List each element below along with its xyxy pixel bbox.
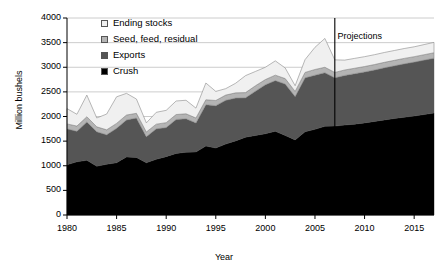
x-tick-label-2000: 2000 xyxy=(245,224,285,233)
legend-label-0: Ending stocks xyxy=(113,18,172,28)
legend-item-2[interactable]: Exports xyxy=(101,47,198,63)
legend-swatch-icon-1 xyxy=(101,36,108,43)
y-tick-label-3500: 3500 xyxy=(19,38,61,47)
x-tick-label-1980: 1980 xyxy=(47,224,87,233)
x-tick-label-1990: 1990 xyxy=(146,224,186,233)
legend-label-1: Seed, feed, residual xyxy=(113,34,198,44)
projections-annotation-label: Projections xyxy=(338,31,383,41)
legend-swatch-icon-0 xyxy=(101,20,108,27)
legend-label-2: Exports xyxy=(113,50,145,60)
legend-item-1[interactable]: Seed, feed, residual xyxy=(101,31,198,47)
x-tick-label-1985: 1985 xyxy=(97,224,137,233)
y-tick-label-500: 500 xyxy=(19,185,61,194)
x-tick-label-2010: 2010 xyxy=(345,224,385,233)
y-tick-label-3000: 3000 xyxy=(19,62,61,71)
y-axis-title: Million bushels xyxy=(14,50,24,150)
y-tick-label-0: 0 xyxy=(19,210,61,219)
legend-swatch-icon-3 xyxy=(101,68,108,75)
legend-item-3[interactable]: Crush xyxy=(101,63,198,79)
y-tick-label-1000: 1000 xyxy=(19,161,61,170)
legend-item-0[interactable]: Ending stocks xyxy=(101,15,198,31)
chart-legend: Ending stocksSeed, feed, residualExports… xyxy=(101,15,198,79)
y-tick-label-2500: 2500 xyxy=(19,87,61,96)
legend-swatch-icon-2 xyxy=(101,52,108,59)
x-tick-label-2015: 2015 xyxy=(394,224,434,233)
chart-figure: 05001000150020002500300035004000 1980198… xyxy=(0,0,448,273)
x-axis-title: Year xyxy=(0,252,448,262)
y-tick-label-4000: 4000 xyxy=(19,13,61,22)
legend-label-3: Crush xyxy=(113,66,138,76)
x-tick-label-2005: 2005 xyxy=(295,224,335,233)
y-tick-label-2000: 2000 xyxy=(19,112,61,121)
x-tick-label-1995: 1995 xyxy=(196,224,236,233)
y-tick-label-1500: 1500 xyxy=(19,136,61,145)
